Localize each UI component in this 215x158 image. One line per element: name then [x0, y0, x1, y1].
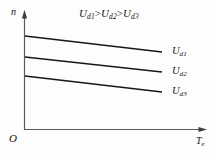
- x-axis-label: Te: [196, 136, 205, 147]
- origin-label: O: [9, 133, 17, 144]
- curve-ud3: [25, 76, 162, 92]
- annotation-symbol-3: U: [123, 7, 131, 19]
- curve-label-ud1: Ud1: [172, 46, 187, 58]
- curve-label-ud3-sub: d3: [180, 90, 187, 98]
- x-axis-arrow-icon: [199, 127, 208, 132]
- annotation-symbol-2: U: [101, 7, 109, 19]
- annotation-symbol-1: U: [79, 7, 87, 19]
- curve-label-ud2-sub: d2: [180, 70, 187, 78]
- y-axis-label: n: [11, 7, 16, 17]
- annotation-sub-3: d3: [131, 12, 139, 21]
- annotation-sub-2: d2: [109, 12, 117, 21]
- curve-label-ud1-sub: d1: [180, 50, 187, 58]
- curve-label-ud2: Ud2: [172, 66, 187, 78]
- annotation-sub-1: d1: [87, 12, 95, 21]
- y-axis-arrow-icon: [22, 10, 27, 19]
- curve-label-ud2-symbol: U: [172, 65, 180, 76]
- curve-label-ud1-symbol: U: [172, 45, 180, 56]
- curve-label-ud3: Ud3: [172, 86, 187, 98]
- curve-group: [25, 36, 162, 92]
- curve-label-ud3-symbol: U: [172, 85, 180, 96]
- x-axis: [25, 127, 208, 132]
- condition-annotation: Ud1>Ud2>Ud3: [79, 8, 139, 20]
- mechanical-characteristic-figure: Ud1>Ud2>Ud3 n Te O Ud1 Ud2 Ud3: [0, 0, 215, 158]
- curve-ud1: [25, 36, 162, 52]
- curve-ud2: [25, 57, 162, 72]
- plot-canvas: [0, 0, 215, 158]
- x-axis-label-sub: e: [202, 140, 205, 147]
- y-axis: [22, 10, 27, 130]
